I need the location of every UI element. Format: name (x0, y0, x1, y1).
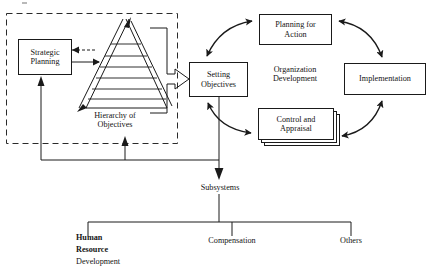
label-organization-development: Organization Development (259, 65, 331, 84)
label-others: Others (334, 236, 368, 245)
strategic-planning-to-pyramid-arrows (72, 47, 100, 66)
label-hierarchy-of-objectives: Hierarchy of Objectives (78, 111, 152, 130)
scan-artifact (22, 2, 27, 4)
subsystems-branch-tree (88, 222, 351, 236)
node-strategic-planning[interactable]: Strategic Planning (18, 39, 72, 75)
node-implementation-label: Implementation (357, 74, 413, 83)
hrd-line-3: Development (76, 256, 120, 268)
node-planning-for-action-label: Planning for Action (273, 20, 318, 38)
hrd-line-1: Human (76, 232, 120, 244)
hierarchy-pyramid (77, 17, 172, 112)
node-implementation[interactable]: Implementation (344, 63, 426, 95)
node-setting-objectives-label: Setting Objectives (199, 70, 238, 88)
label-human-resource-development: Human Resource Development (76, 232, 120, 268)
node-control-and-appraisal-label: Control and Appraisal (275, 115, 318, 133)
node-planning-for-action[interactable]: Planning for Action (259, 14, 332, 45)
diagram-canvas: Strategic Planning Setting Objectives Pl… (0, 0, 437, 271)
node-strategic-planning-label: Strategic Planning (28, 48, 61, 66)
label-compensation: Compensation (201, 236, 263, 245)
label-subsystems: Subsystems (192, 183, 248, 192)
hrd-line-2: Resource (76, 244, 120, 256)
node-setting-objectives[interactable]: Setting Objectives (189, 62, 248, 97)
node-control-and-appraisal[interactable]: Control and Appraisal (258, 108, 334, 140)
